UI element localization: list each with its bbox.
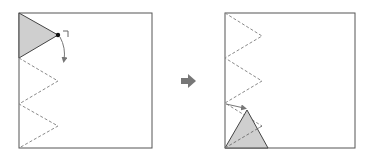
- left-panel: [19, 13, 152, 148]
- right-panel: [225, 13, 355, 148]
- pivot-dot: [56, 33, 60, 37]
- folding-diagram: [0, 0, 374, 161]
- right-arrow-icon: [181, 74, 196, 88]
